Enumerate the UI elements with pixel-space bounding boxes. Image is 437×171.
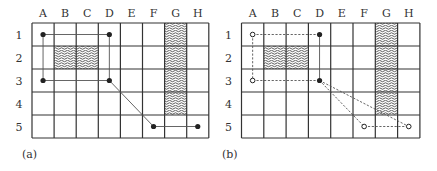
- path-edge-dashed: [320, 81, 365, 127]
- column-label: H: [193, 7, 203, 20]
- node-filled: [317, 32, 322, 37]
- obstacle-cell: [375, 23, 397, 46]
- node-filled: [40, 78, 45, 83]
- column-label: G: [382, 7, 391, 20]
- column-label: B: [61, 7, 69, 20]
- column-label: F: [360, 7, 368, 20]
- row-label: 5: [225, 121, 232, 134]
- row-label: 1: [16, 29, 23, 42]
- path-edge-solid: [109, 81, 153, 127]
- column-label: D: [315, 7, 324, 20]
- node-filled: [151, 124, 156, 129]
- panel-caption: (a): [22, 148, 37, 161]
- column-label: C: [83, 7, 91, 20]
- panel-caption: (b): [222, 148, 238, 161]
- column-label: H: [404, 7, 414, 20]
- row-label: 3: [225, 75, 232, 88]
- node-filled: [107, 78, 112, 83]
- obstacle-cell: [54, 46, 76, 69]
- obstacle-cell: [165, 46, 187, 69]
- obstacle-cell: [286, 46, 308, 69]
- panel-b: ABCDEFGH12345(b): [222, 7, 420, 161]
- obstacle-cell: [375, 69, 397, 92]
- row-label: 3: [16, 75, 23, 88]
- column-label: D: [105, 7, 114, 20]
- obstacle-cell: [375, 46, 397, 69]
- row-label: 4: [225, 98, 232, 111]
- grid-figure: ABCDEFGH12345(a) ABCDEFGH12345(b): [0, 0, 437, 171]
- node-filled: [107, 32, 112, 37]
- row-label: 2: [16, 52, 23, 65]
- node-open: [362, 124, 367, 129]
- row-label: 4: [16, 98, 23, 111]
- node-open: [250, 32, 255, 37]
- obstacle-cell: [165, 92, 187, 115]
- node-filled: [195, 124, 200, 129]
- panel-a: ABCDEFGH12345(a): [16, 7, 209, 161]
- column-label: G: [171, 7, 180, 20]
- node-filled: [317, 78, 322, 83]
- node-open: [250, 78, 255, 83]
- obstacle-cell: [375, 92, 397, 115]
- column-label: E: [127, 7, 135, 20]
- obstacle-cell: [165, 23, 187, 46]
- obstacle-cell: [165, 69, 187, 92]
- column-label: E: [338, 7, 346, 20]
- row-label: 5: [16, 121, 23, 134]
- column-label: C: [293, 7, 301, 20]
- node-open: [406, 124, 411, 129]
- obstacle-cell: [76, 46, 98, 69]
- column-label: A: [248, 7, 258, 20]
- column-label: B: [271, 7, 279, 20]
- column-label: A: [38, 7, 48, 20]
- row-label: 2: [225, 52, 232, 65]
- row-label: 1: [225, 29, 232, 42]
- column-label: F: [150, 7, 158, 20]
- node-filled: [40, 32, 45, 37]
- obstacle-cell: [264, 46, 286, 69]
